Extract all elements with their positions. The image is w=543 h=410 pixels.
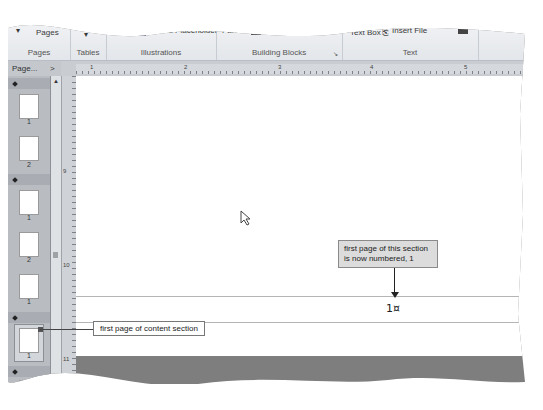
picture-button[interactable]: Picture: [110, 18, 135, 27]
pages-button[interactable]: Pages: [36, 28, 59, 37]
page-thumbnail[interactable]: [19, 232, 39, 257]
page-thumbnail-selected[interactable]: [19, 328, 39, 353]
page-thumbnail-number: 1: [8, 352, 50, 359]
ruler-tick: 3: [278, 64, 281, 70]
section-header[interactable]: [8, 366, 50, 377]
insert-file-button[interactable]: Insert File: [392, 26, 427, 35]
section-header[interactable]: [8, 174, 50, 185]
page-thumbnail-number: 1: [8, 298, 50, 305]
dropdown-arrow-icon[interactable]: ▾: [84, 30, 88, 39]
page-thumbnail[interactable]: [19, 94, 39, 119]
table-button[interactable]: Table: [78, 20, 97, 29]
page-thumbnail[interactable]: [19, 136, 39, 161]
text-box-button[interactable]: Text Box: [350, 28, 381, 37]
group-label-tables: Tables: [70, 48, 106, 57]
callout-page-numbered: first page of this section is now number…: [338, 240, 438, 268]
picture-placeholder-icon: [136, 26, 146, 36]
ruler-tick: 2: [184, 64, 187, 70]
group-label-building-blocks: Building Blocks: [216, 48, 342, 57]
ruler-tick: 11: [63, 356, 69, 362]
ribbon-group-building-blocks: Parts ▾ Advertisements ▾ Building Blocks…: [216, 14, 343, 60]
group-label-pages: Pages: [8, 48, 70, 57]
page-thumbnail[interactable]: [19, 274, 39, 299]
callout-content-section: first page of content section: [93, 321, 205, 336]
page-thumbnail[interactable]: [19, 190, 39, 215]
hyperlink-button[interactable]: Hyp: [484, 20, 498, 29]
collapse-nav-button[interactable]: >: [50, 64, 55, 73]
callout-arrow-line: [394, 268, 395, 294]
launcher-icon[interactable]: ↘: [333, 50, 338, 57]
group-label-illustrations: Illustrations: [106, 48, 216, 57]
ruler-tick: 4: [370, 64, 373, 70]
guide-line: [76, 296, 525, 297]
ribbon-group-pages: ▾ Pages Pages: [8, 14, 71, 60]
document-page[interactable]: [76, 76, 525, 356]
scroll-up-icon[interactable]: ▲: [53, 78, 59, 84]
page-number-field[interactable]: 1¤: [386, 302, 400, 315]
ribbon-group-links: Hyp: [478, 14, 525, 60]
dropdown-arrow-icon[interactable]: ▾: [322, 26, 326, 35]
ribbon-group-text: Text Box ⎘ Insert File Text: [342, 14, 479, 60]
arrow-down-icon: [391, 292, 399, 298]
callout-leader-line: [40, 329, 93, 330]
dropdown-arrow-icon[interactable]: ▾: [16, 26, 20, 35]
parts-button[interactable]: Parts: [222, 26, 241, 35]
insert-file-icon: ⎘: [382, 28, 388, 38]
ribbon-group-illustrations: Picture Picture Placeholder Illustration…: [106, 14, 217, 60]
horizontal-ruler[interactable]: 1 2 3 4 5: [76, 64, 525, 74]
group-label-text: Text: [342, 48, 478, 57]
ruler-tick: 1: [90, 64, 93, 70]
page-thumbnail-number: 1: [8, 118, 50, 125]
ruler-tick: 9: [63, 168, 66, 174]
vertical-ruler[interactable]: 9 10 11: [62, 76, 76, 386]
nav-pane-title: Page...: [12, 64, 37, 73]
scroll-thumb[interactable]: [53, 252, 58, 258]
page-thumbnail-number: 2: [8, 161, 50, 168]
ruler-tick: 10: [63, 262, 70, 268]
page-thumbnail-number: 1: [8, 214, 50, 221]
wordart-icon[interactable]: [458, 26, 468, 34]
screenshot-frame: ▾ Pages Pages Table ▾ Tables Picture Pic…: [0, 0, 543, 410]
page-thumbnail[interactable]: [19, 380, 39, 405]
ruler-tick: 5: [464, 64, 467, 70]
section-header[interactable]: [8, 312, 50, 323]
ribbon-group-tables: Table ▾ Tables: [70, 14, 107, 60]
page-thumbnail-number: 2: [8, 256, 50, 263]
page-navigation-pane: 1 2 1 2 1 1: [8, 76, 51, 386]
section-header[interactable]: [8, 78, 50, 89]
ribbon: ▾ Pages Pages Table ▾ Tables Picture Pic…: [8, 14, 525, 61]
advertisements-button[interactable]: Advertisements: [262, 26, 317, 35]
nav-pane-header: Page... >: [8, 61, 61, 76]
advertisements-icon: [251, 25, 261, 35]
mouse-pointer-icon: [240, 210, 252, 226]
nav-scrollbar[interactable]: ▲: [51, 76, 62, 386]
picture-placeholder-button[interactable]: Picture Placeholder: [148, 26, 217, 35]
dropdown-arrow-icon[interactable]: ▾: [243, 26, 247, 35]
